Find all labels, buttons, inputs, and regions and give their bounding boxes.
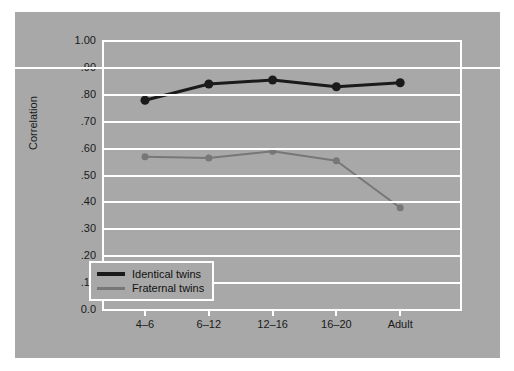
data-point-marker [397, 204, 404, 211]
gridline [102, 67, 462, 69]
legend-label-fraternal-twins: Fraternal twins [132, 282, 204, 294]
legend-line-swatch-identical-icon [97, 272, 125, 276]
data-point-marker [268, 76, 277, 85]
legend-item-identical-twins: Identical twins [97, 267, 204, 281]
x-axis-tick-label: Adult [388, 318, 413, 330]
data-point-marker [396, 78, 405, 87]
y-axis-tick-label: .60 [81, 143, 96, 154]
y-axis-title: Correlation [27, 136, 39, 150]
data-point-marker [204, 80, 213, 89]
x-axis-tick-mark [335, 310, 337, 316]
gridline [102, 94, 462, 96]
y-axis-tick-label: .20 [81, 250, 96, 261]
x-axis-tick-mark [399, 310, 401, 316]
series-line-fraternal-twins [145, 151, 400, 208]
gridline [102, 255, 462, 257]
data-point-marker [332, 82, 341, 91]
y-axis-tick-label: .70 [81, 116, 96, 127]
figure: Correlation 1.00.90.80.70.60.50.40.30.20… [0, 0, 514, 371]
y-axis-tick-label: .40 [81, 196, 96, 207]
x-axis-tick-labels: 4–66–1212–1616–20Adult [0, 318, 514, 338]
x-axis-tick-mark [208, 310, 210, 316]
gridline [102, 201, 462, 203]
legend-item-fraternal-twins: Fraternal twins [97, 281, 204, 295]
gridline [102, 175, 462, 177]
y-axis-tick-label: .30 [81, 223, 96, 234]
gridline [102, 228, 462, 230]
data-point-marker [333, 157, 340, 164]
y-axis-tick-label: .80 [81, 89, 96, 100]
gridline [102, 40, 462, 42]
gridline [102, 148, 462, 150]
legend-line-swatch-fraternal-icon [97, 287, 125, 290]
data-point-marker [141, 96, 150, 105]
x-axis-tick-label: 4–6 [136, 318, 154, 330]
plot-right-border [460, 41, 462, 310]
legend-label-identical-twins: Identical twins [132, 268, 201, 280]
x-axis-tick-mark [144, 310, 146, 316]
y-axis-tick-label: 0.0 [81, 304, 96, 315]
data-point-marker [205, 155, 212, 162]
chart-legend: Identical twins Fraternal twins [89, 261, 214, 301]
y-axis-tick-labels: 1.00.90.80.70.60.50.40.30.20.100.0 [52, 0, 96, 371]
x-axis-tick-mark [272, 310, 274, 316]
data-point-marker [142, 153, 149, 160]
y-axis-tick-label: .50 [81, 170, 96, 181]
x-axis-tick-label: 12–16 [257, 318, 288, 330]
x-axis-tick-label: 16–20 [321, 318, 352, 330]
gridline [102, 309, 462, 311]
y-axis-tick-label: 1.00 [75, 35, 96, 46]
gridline [102, 121, 462, 123]
x-axis-tick-label: 6–12 [197, 318, 221, 330]
